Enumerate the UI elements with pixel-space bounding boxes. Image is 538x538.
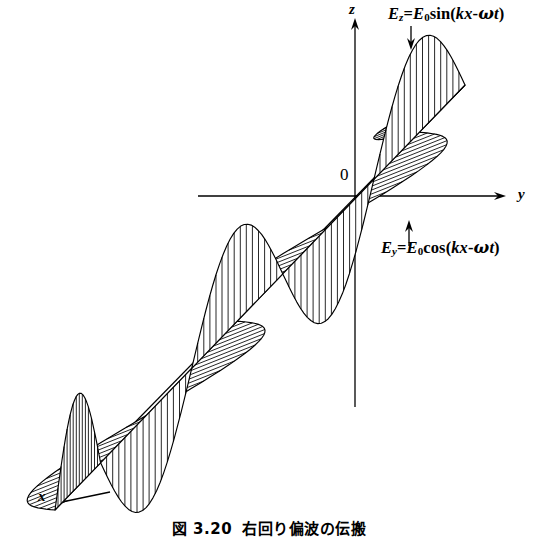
ez-position: x [464, 4, 472, 23]
figure-number: 図 3.20 [172, 520, 232, 538]
y-axis-label: y [518, 187, 525, 202]
ey-position: x [460, 238, 468, 257]
ez-omega: ω [478, 4, 494, 23]
ez-equals: = [404, 4, 414, 23]
ey-wavenumber: k [451, 238, 459, 257]
ey-function: cos [423, 238, 445, 257]
ez-amplitude: E [413, 4, 424, 23]
wave-lobes-group [27, 35, 465, 512]
z-axis-label: z [349, 2, 355, 17]
ez-close-paren: ) [499, 4, 505, 23]
lobe-outline [55, 393, 101, 510]
ey-amplitude: E [407, 238, 418, 257]
x-axis-label: x [38, 489, 46, 504]
ey-close-paren: ) [494, 238, 500, 257]
ez-lobe [55, 393, 101, 510]
ey-omega: ω [474, 238, 490, 257]
ey-symbol: E [381, 238, 392, 257]
ez-equation: Ez=E0sin(kx-ωt) [388, 6, 504, 23]
ez-function: sin [430, 4, 450, 23]
ey-equation: Ey=E0cos(kx-ωt) [381, 240, 500, 257]
figure-title: 右回り偏波の伝搬 [242, 520, 366, 538]
ez-symbol: E [388, 4, 399, 23]
ey-equals: = [397, 238, 407, 257]
origin-label: 0 [340, 166, 349, 183]
ez-wavenumber: k [456, 4, 464, 23]
figure-caption: 図 3.20右回り偏波の伝搬 [0, 517, 538, 538]
